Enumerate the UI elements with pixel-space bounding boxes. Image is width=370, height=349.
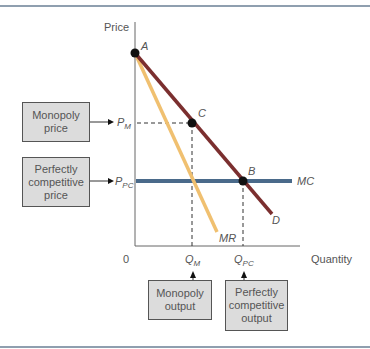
monopoly-price-box: Monopoly price [22,102,90,142]
qm-label: QM [185,253,201,268]
demand-curve [135,53,272,214]
competitive-output-box: Perfectly competitive output [225,280,288,331]
arrow-head-icon [241,271,247,278]
mc-label: MC [297,175,314,187]
d-label: D [272,214,280,226]
point-c [188,119,197,128]
point-b [239,177,248,186]
arrow-head-icon [190,271,196,278]
competitive-price-box: Perfectly competitive price [22,157,90,207]
mr-curve [135,53,217,232]
point-a [131,49,140,58]
point-b-label: B [248,165,255,177]
point-a-label: A [140,40,148,52]
point-c-label: C [198,107,206,119]
pm-label: PM [117,116,131,131]
monopoly-output-box: Monopoly output [148,280,212,320]
arrow-head-icon [108,178,114,184]
qpc-label: QPC [234,253,254,268]
arrow-head-icon [108,119,114,125]
x-axis-label: Quantity [311,253,352,265]
mr-label: MR [219,232,236,244]
y-axis-label: Price [104,21,129,33]
monopoly-vs-competition-diagram: Price Quantity 0 A C B MC D MR PM PPC QM… [0,0,370,349]
ppc-label: PPC [115,175,134,190]
origin-label: 0 [123,253,129,265]
